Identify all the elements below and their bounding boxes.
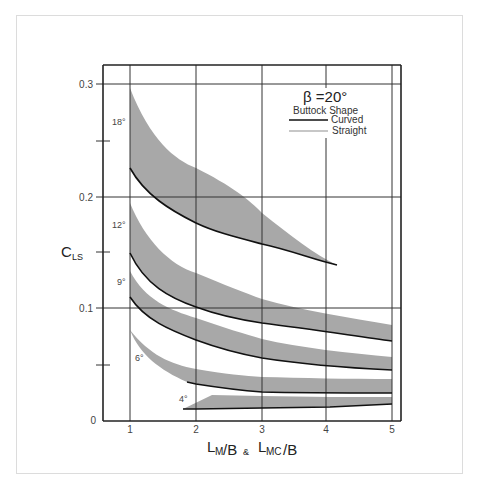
angle-label-12: 12°: [112, 220, 126, 230]
x-axis-over-B1: /B: [223, 441, 237, 458]
x-axis-sub-MC: MC: [266, 446, 282, 457]
legend-straight-label: Straight: [332, 125, 367, 136]
x-tick-1: 1: [127, 424, 133, 435]
angle-label-4: 4°: [179, 394, 188, 404]
legend-title: β =20°: [303, 88, 347, 105]
x-axis-over-B2: /B: [283, 441, 297, 458]
x-tick-4: 4: [323, 424, 329, 435]
x-tick-labels: 1 2 3 4 5: [127, 424, 395, 435]
x-tick-2: 2: [193, 424, 199, 435]
y-axis-label-main: C: [61, 243, 72, 260]
legend: β =20° Buttock Shape Curved Straight: [285, 88, 385, 138]
y-axis-label: C LS: [61, 243, 83, 262]
angle-label-18: 18°: [112, 117, 126, 127]
legend-curved-label: Curved: [331, 114, 363, 125]
angle-label-6: 6°: [135, 353, 144, 363]
x-axis-label: L M /B & L MC /B: [207, 438, 297, 458]
y-tick-0: 0: [90, 415, 96, 426]
x-tick-5: 5: [389, 424, 395, 435]
x-tick-3: 3: [259, 424, 265, 435]
chart: β =20° Buttock Shape Curved Straight 18°…: [0, 0, 477, 490]
y-tick-0.3: 0.3: [79, 79, 93, 90]
angle-label-9: 9°: [117, 277, 126, 287]
y-tick-0.2: 0.2: [79, 192, 93, 203]
y-tick-0.1: 0.1: [79, 303, 93, 314]
y-axis-label-sub: LS: [72, 252, 83, 262]
x-axis-ampersand: &: [243, 447, 249, 457]
